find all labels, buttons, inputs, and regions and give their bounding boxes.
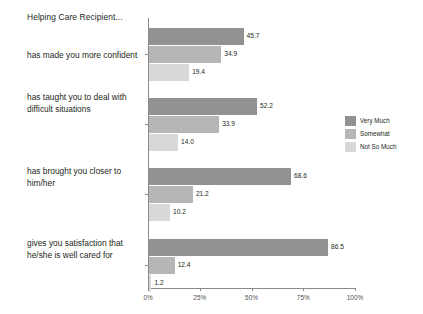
bar-value-label: 34.9 [224,50,237,57]
bar-value-label: 45.7 [247,32,260,39]
bar-0-1[interactable] [149,46,221,63]
chart-title: Helping Care Recipient... [27,12,123,22]
bar-1-1[interactable] [149,116,219,133]
bar-value-label: 52.2 [260,102,273,109]
legend-item-not-so-much: Not So Much [345,141,396,152]
bar-row: 86.5 [149,239,355,256]
bar-value-label: 12.4 [178,261,191,268]
bar-2-0[interactable] [149,168,291,185]
bar-row: 19.4 [149,64,355,81]
bar-value-label: 33.9 [222,120,235,127]
bar-0-2[interactable] [149,64,189,81]
x-axis-tick-label: 75% [297,294,310,301]
legend-item-very-much: Very Much [345,115,396,126]
bar-2-1[interactable] [149,186,193,203]
bar-value-label: 1.2 [154,279,163,286]
category-label-0: has made you more confident [27,50,145,62]
category-label-3: gives you satisfaction that he/she is we… [27,238,145,261]
bar-row: 21.2 [149,186,355,203]
y-axis-tick [145,54,148,55]
legend-swatch-not-so-much [345,142,356,152]
category-group-1: 52.233.914.0 [149,98,355,152]
bar-3-0[interactable] [149,239,328,256]
x-axis-tick [200,288,201,291]
legend-swatch-very-much [345,116,356,126]
bar-row: 14.0 [149,134,355,151]
bar-1-0[interactable] [149,98,257,115]
category-group-0: 45.734.919.4 [149,28,355,82]
bar-value-label: 10.2 [173,208,186,215]
bar-row: 52.2 [149,98,355,115]
bar-3-2[interactable] [149,275,151,292]
x-axis-tick [148,288,149,291]
bar-row: 12.4 [149,257,355,274]
x-axis-tick [252,288,253,291]
bar-row: 45.7 [149,28,355,45]
bar-value-label: 21.2 [196,190,209,197]
bar-row: 33.9 [149,116,355,133]
bar-chart: Helping Care Recipient... has made you m… [0,0,423,314]
bar-0-0[interactable] [149,28,244,45]
x-axis-tick [303,288,304,291]
category-group-2: 68.621.210.2 [149,168,355,222]
x-axis-tick-label: 0% [143,294,152,301]
bar-row: 34.9 [149,46,355,63]
legend-item-somewhat: Somewhat [345,128,396,139]
chart-legend: Very Much Somewhat Not So Much [345,115,396,154]
category-label-2: has brought you closer to him/her [27,166,145,189]
bar-1-2[interactable] [149,134,178,151]
bar-row: 10.2 [149,204,355,221]
bar-2-2[interactable] [149,204,170,221]
y-axis-tick [145,265,148,266]
bar-3-1[interactable] [149,257,175,274]
bar-row: 68.6 [149,168,355,185]
legend-label-very-much: Very Much [360,117,390,124]
x-axis-tick [355,288,356,291]
bar-value-label: 68.6 [294,172,307,179]
y-axis-tick [145,124,148,125]
legend-label-somewhat: Somewhat [360,130,390,137]
legend-label-not-so-much: Not So Much [360,143,396,150]
plot-area: 45.734.919.452.233.914.068.621.210.286.5… [148,18,355,288]
bar-value-label: 86.5 [331,243,344,250]
x-axis-tick-label: 50% [245,294,258,301]
category-group-3: 86.512.41.2 [149,239,355,293]
y-axis-tick [145,194,148,195]
legend-swatch-somewhat [345,129,356,139]
x-axis-tick-label: 100% [347,294,363,301]
category-label-1: has taught you to deal with difficult si… [27,92,145,115]
bar-value-label: 19.4 [192,68,205,75]
x-axis-tick-label: 25% [193,294,206,301]
bar-value-label: 14.0 [181,138,194,145]
